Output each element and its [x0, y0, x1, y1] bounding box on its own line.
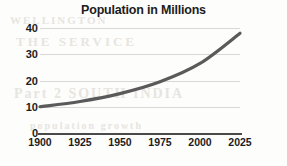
x-tick-label: 1950 [108, 136, 131, 148]
x-tick-label: 2000 [188, 136, 211, 148]
gridline [40, 28, 240, 29]
y-tick-label: 10 [12, 101, 38, 113]
y-tick-label: 20 [12, 75, 38, 87]
x-tick-label: 1975 [148, 136, 171, 148]
x-tick-label: 2025 [228, 136, 251, 148]
gridline [40, 54, 240, 55]
x-axis-baseline [38, 133, 242, 135]
y-tick-label: 30 [12, 48, 38, 60]
plot-area [40, 28, 240, 133]
x-axis: 190019251950197520002025 [0, 136, 287, 152]
chart-container: WELLINGTON THE SERVICE Part 2 SOUTH INDI… [0, 0, 287, 166]
x-tick-label: 1900 [28, 136, 51, 148]
x-tick-label: 1925 [68, 136, 91, 148]
gridline [40, 81, 240, 82]
chart-title: Population in Millions [0, 3, 287, 17]
gridline [40, 107, 240, 108]
y-tick-label: 40 [12, 22, 38, 34]
